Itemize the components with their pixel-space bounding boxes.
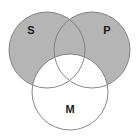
- venn-label-p: P: [103, 24, 110, 36]
- venn-diagram-figure: S P M: [0, 0, 139, 138]
- venn-label-m: M: [65, 103, 74, 115]
- venn-diagram-canvas: S P M: [0, 0, 139, 138]
- venn-label-s: S: [27, 24, 34, 36]
